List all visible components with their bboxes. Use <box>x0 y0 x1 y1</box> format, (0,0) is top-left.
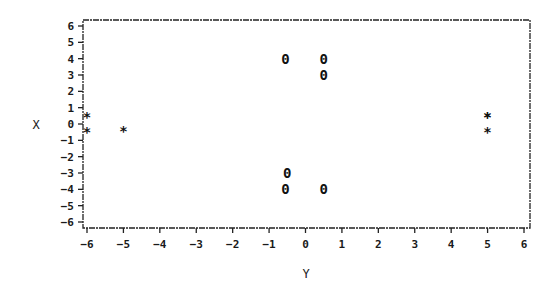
y-tick-label: 4 <box>67 53 74 66</box>
zero-marker: 0 <box>319 181 327 197</box>
x-tick-label: 6 <box>521 238 528 251</box>
x-tick-label: −1 <box>262 238 276 251</box>
zero-marker: 0 <box>281 51 289 67</box>
x-tick-label: −2 <box>226 238 239 251</box>
asterisk-marker: * <box>483 109 491 125</box>
y-tick-label: −3 <box>61 167 74 180</box>
x-tick-label: −4 <box>153 238 167 251</box>
y-tick-label: −5 <box>61 200 74 213</box>
y-tick-label: −2 <box>61 151 74 164</box>
asterisk-marker: * <box>83 109 91 125</box>
x-tick-label: −6 <box>80 238 94 251</box>
y-axis-label: X <box>32 118 40 132</box>
x-tick-label: 4 <box>448 238 455 251</box>
y-tick-label: 1 <box>67 102 74 115</box>
zero-marker: 0 <box>283 165 291 181</box>
x-tick-label: −5 <box>117 238 130 251</box>
y-tick-label: −6 <box>61 216 75 229</box>
asterisk-marker: * <box>483 124 491 140</box>
zero-marker: 0 <box>281 181 289 197</box>
zero-marker: 0 <box>319 51 327 67</box>
x-tick-label: 0 <box>302 238 309 251</box>
data-points: ******000000 <box>83 51 492 198</box>
x-tick-label: 5 <box>484 238 491 251</box>
y-tick-label: 0 <box>67 118 74 131</box>
asterisk-marker: * <box>119 123 127 139</box>
x-axis-label: Y <box>302 267 310 281</box>
y-tick-label: 6 <box>67 20 74 33</box>
y-tick-label: 5 <box>67 36 74 49</box>
asterisk-marker: * <box>83 124 91 140</box>
x-tick-label: 1 <box>339 238 346 251</box>
y-tick-label: 2 <box>67 85 74 98</box>
y-tick-label: −1 <box>61 134 75 147</box>
plot-frame <box>83 20 530 228</box>
x-axis: −6−5−4−3−2−10123456 <box>80 228 527 251</box>
x-tick-label: 2 <box>375 238 382 251</box>
x-tick-label: 3 <box>411 238 418 251</box>
y-axis: 6543210−1−2−3−4−5−6 <box>61 20 83 229</box>
y-tick-label: 3 <box>67 69 74 82</box>
y-tick-label: −4 <box>61 183 75 196</box>
x-tick-label: −3 <box>190 238 203 251</box>
zero-marker: 0 <box>319 67 327 83</box>
scatter-plot: 6543210−1−2−3−4−5−6 −6−5−4−3−2−10123456 … <box>0 0 556 295</box>
